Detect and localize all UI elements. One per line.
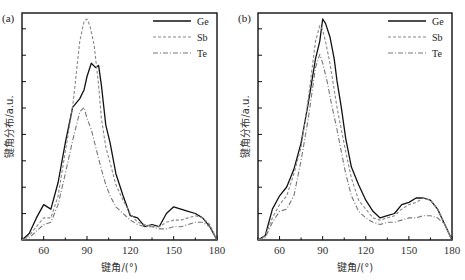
x-tick-label: 60 xyxy=(274,244,286,256)
panel-label: (a) xyxy=(2,12,15,25)
legend-te-label: Te xyxy=(197,48,207,59)
x-tick-label: 120 xyxy=(122,244,139,256)
x-axis-label: 键角/(°) xyxy=(337,261,373,273)
chart-figure: 6090120150180键角/(°)键角分布/a.u.(a)GeSbTe 60… xyxy=(0,0,465,280)
x-tick-label: 180 xyxy=(444,244,461,256)
series-te-line xyxy=(22,107,217,240)
chart-panel-b: 6090120150180键角/(°)键角分布/a.u.(b)GeSbTe xyxy=(238,12,461,273)
legend-ge-label: Ge xyxy=(432,16,444,27)
series-ge-line xyxy=(22,63,217,240)
series-te-line xyxy=(258,54,452,240)
x-tick-label: 60 xyxy=(38,244,50,256)
x-tick-label: 180 xyxy=(209,244,226,256)
plot-frame xyxy=(258,13,452,240)
panel-label: (b) xyxy=(238,12,251,25)
legend-ge-label: Ge xyxy=(197,16,209,27)
x-tick-label: 150 xyxy=(401,244,418,256)
x-tick-label: 90 xyxy=(82,244,94,256)
x-tick-label: 150 xyxy=(165,244,182,256)
legend-sb-label: Sb xyxy=(432,32,443,43)
series-ge-line xyxy=(258,19,452,240)
legend-te-label: Te xyxy=(432,48,442,59)
y-axis-label: 键角分布/a.u. xyxy=(239,95,251,157)
chart-panel-a: 6090120150180键角/(°)键角分布/a.u.(a)GeSbTe xyxy=(2,12,226,273)
y-axis-label: 键角分布/a.u. xyxy=(3,95,15,157)
x-tick-label: 120 xyxy=(358,244,375,256)
series-sb-line xyxy=(258,26,452,240)
x-axis-label: 键角/(°) xyxy=(101,261,137,273)
legend-sb-label: Sb xyxy=(197,32,208,43)
x-tick-label: 90 xyxy=(317,244,329,256)
